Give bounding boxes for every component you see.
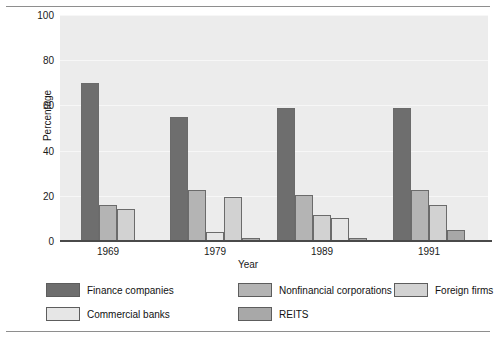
bar bbox=[99, 205, 117, 241]
legend-item[interactable]: REITS bbox=[238, 307, 308, 321]
y-axis-tick-label: 0 bbox=[48, 236, 54, 247]
legend-item[interactable]: Foreign firms bbox=[394, 283, 493, 297]
bar-group bbox=[277, 15, 367, 241]
bar bbox=[331, 218, 349, 241]
legend-item[interactable]: Finance companies bbox=[46, 283, 174, 297]
legend-label: Finance companies bbox=[87, 285, 174, 296]
bar bbox=[313, 215, 331, 241]
bar bbox=[295, 195, 313, 241]
bar-group bbox=[81, 15, 135, 241]
x-axis-tick-label: 1969 bbox=[97, 246, 119, 257]
bar bbox=[224, 197, 242, 241]
y-axis-tick-label: 100 bbox=[37, 10, 54, 21]
legend-swatch bbox=[46, 307, 80, 321]
bar bbox=[393, 108, 411, 241]
top-rule bbox=[6, 6, 490, 7]
legend-swatch bbox=[238, 283, 272, 297]
bar bbox=[81, 83, 99, 241]
x-axis-tick-label: 1989 bbox=[311, 246, 333, 257]
bar bbox=[188, 190, 206, 241]
legend-label: REITS bbox=[279, 309, 308, 320]
plot-area: 020406080100 Percentage bbox=[60, 15, 488, 241]
bar bbox=[117, 209, 135, 241]
bottom-rule bbox=[6, 331, 490, 332]
y-axis-tick-label: 40 bbox=[43, 145, 54, 156]
legend-swatch bbox=[238, 307, 272, 321]
y-axis-tick-label: 80 bbox=[43, 55, 54, 66]
bar-group bbox=[393, 15, 465, 241]
bar bbox=[429, 205, 447, 241]
legend-label: Commercial banks bbox=[87, 309, 170, 320]
x-axis-line bbox=[60, 240, 492, 242]
x-axis-label: Year bbox=[0, 259, 496, 270]
y-axis-label: Percentage bbox=[42, 90, 53, 141]
y-axis-tick-label: 20 bbox=[43, 190, 54, 201]
figure: 020406080100 Percentage 1969197919891991… bbox=[0, 0, 496, 343]
legend: Finance companiesNonfinancial corporatio… bbox=[46, 283, 482, 327]
bar bbox=[411, 190, 429, 241]
legend-label: Nonfinancial corporations bbox=[279, 285, 392, 296]
legend-swatch bbox=[46, 283, 80, 297]
legend-item[interactable]: Commercial banks bbox=[46, 307, 170, 321]
bar bbox=[170, 117, 188, 241]
legend-label: Foreign firms bbox=[435, 285, 493, 296]
bar bbox=[277, 108, 295, 241]
legend-item[interactable]: Nonfinancial corporations bbox=[238, 283, 392, 297]
bar-group bbox=[170, 15, 260, 241]
x-axis-tick-label: 1979 bbox=[204, 246, 226, 257]
legend-swatch bbox=[394, 283, 428, 297]
x-axis-tick-label: 1991 bbox=[418, 246, 440, 257]
